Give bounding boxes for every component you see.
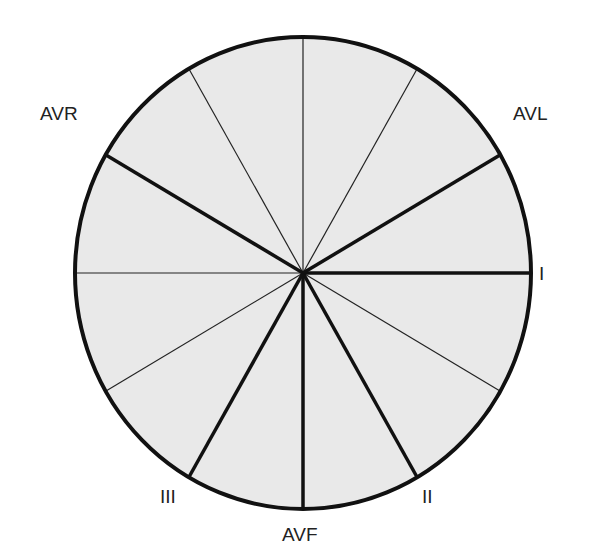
label-ii: II	[422, 487, 433, 506]
label-avl: AVL	[513, 104, 548, 123]
hexaxial-diagram	[0, 0, 590, 556]
label-iii: III	[160, 487, 176, 506]
label-i: I	[539, 264, 544, 283]
label-avf: AVF	[282, 525, 318, 544]
label-avr: AVR	[40, 104, 78, 123]
